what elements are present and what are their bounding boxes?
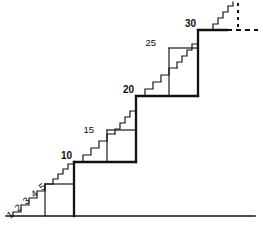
steps-21-to-25 [136, 68, 177, 96]
steps-above-30 [213, 2, 233, 30]
label-15: 15 [83, 124, 94, 135]
tier-3-unit-steps [136, 44, 198, 96]
label-20: 20 [123, 84, 135, 95]
minor-labels-group: 1 2 3 4 5 [4, 181, 47, 221]
block-20-group [107, 96, 198, 162]
label-25: 25 [145, 37, 156, 48]
label-1: 1 [4, 209, 15, 221]
mid-labels-group: 15 25 [83, 37, 156, 135]
tier-4-continuation-steps [213, 2, 233, 30]
block-30-group [169, 30, 227, 96]
figure-canvas: 1 2 3 4 5 15 25 10 20 30 [0, 0, 263, 229]
block-10-group [45, 162, 136, 216]
staircase-diagram: 1 2 3 4 5 15 25 10 20 30 [0, 0, 263, 229]
major-labels-group: 10 20 30 [61, 18, 197, 161]
steps-11-to-15 [74, 134, 115, 162]
label-10: 10 [61, 150, 73, 161]
tier-2-unit-steps [74, 111, 136, 162]
label-30: 30 [185, 18, 197, 29]
continuation-markers [227, 3, 258, 30]
unit-steps-6-to-9 [53, 164, 74, 184]
